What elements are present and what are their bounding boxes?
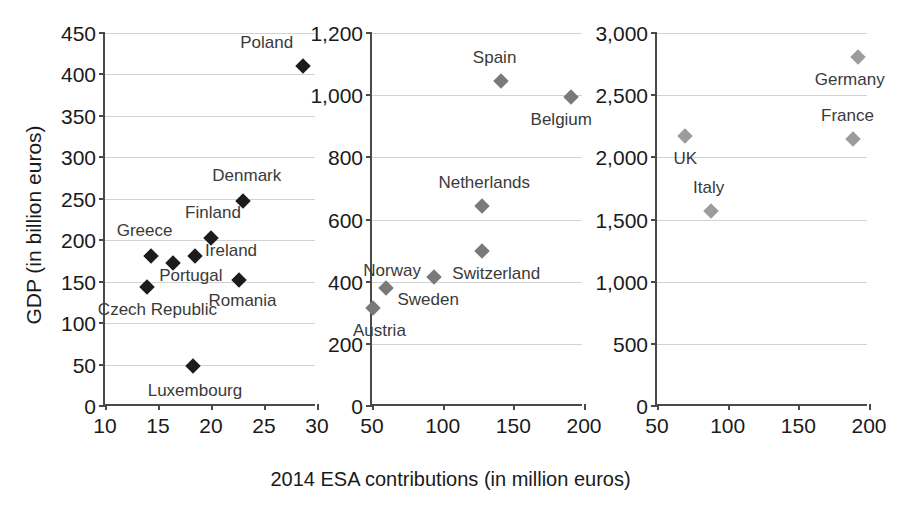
gridline-y (657, 95, 867, 96)
scatter-chart-figure: GDP (in billion euros) 05010015020025030… (0, 0, 901, 510)
x-tick-label: 150 (781, 415, 816, 436)
data-point-marker (846, 131, 862, 147)
y-tick-mark (651, 94, 657, 96)
data-point-marker (703, 203, 719, 219)
gridline-y (657, 344, 867, 345)
x-tick-mark (798, 404, 800, 410)
gridline-y (657, 282, 867, 283)
y-tick-mark (651, 156, 657, 158)
y-tick-label: 2,500 (595, 85, 648, 106)
y-tick-mark (651, 32, 657, 34)
x-tick-label: 50 (645, 415, 668, 436)
data-point-label: France (821, 106, 874, 123)
gridline-y (657, 33, 867, 34)
y-tick-mark (651, 343, 657, 345)
y-tick-mark (651, 219, 657, 221)
y-tick-label: 1,500 (595, 209, 648, 230)
y-tick-label: 500 (613, 333, 648, 354)
x-tick-mark (869, 404, 871, 410)
data-point-label: Italy (693, 178, 724, 195)
x-tick-mark (657, 404, 659, 410)
y-tick-label: 1,000 (595, 271, 648, 292)
gridline-y (657, 220, 867, 221)
data-point-label: Germany (815, 70, 885, 87)
x-axis-title: 2014 ESA contributions (in million euros… (0, 468, 901, 491)
x-tick-label: 200 (851, 415, 886, 436)
data-point-label: UK (673, 150, 697, 167)
y-tick-label: 3,000 (595, 23, 648, 44)
panel-high-plot-area: 05001,0001,5002,0002,5003,00050100150200… (655, 33, 867, 406)
panel-3: 05001,0001,5002,0002,5003,00050100150200… (0, 0, 901, 450)
x-tick-label: 100 (710, 415, 745, 436)
data-point-marker (850, 49, 866, 65)
x-tick-mark (728, 404, 730, 410)
y-tick-mark (651, 281, 657, 283)
data-point-marker (677, 128, 693, 144)
y-tick-label: 2,000 (595, 147, 648, 168)
